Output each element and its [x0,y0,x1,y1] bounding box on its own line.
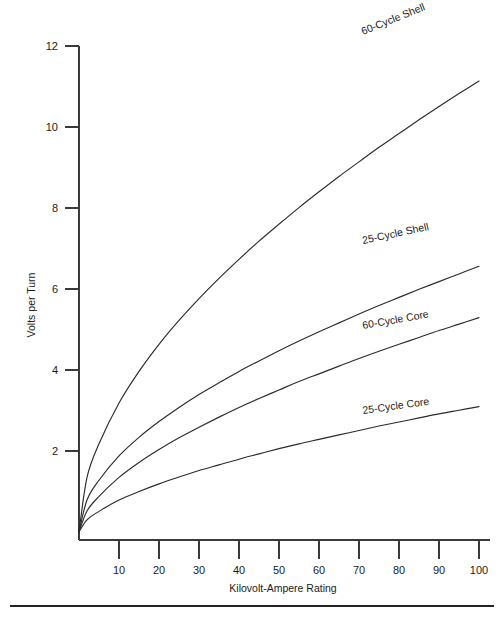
series-labels-group: 60-Cycle Shell 25-Cycle Shell 60-Cycle C… [359,0,430,416]
x-tick-label-10: 10 [113,564,125,576]
volts-per-turn-chart: 12 10 8 6 4 2 Volts per Turn 10 20 30 [0,0,504,618]
y-tick-label-4: 4 [52,364,58,376]
y-tick-label-6: 6 [52,283,58,295]
series-label-25-cycle-shell: 25-Cycle Shell [361,220,430,246]
y-axis-title: Volts per Turn [25,272,37,337]
x-tick-label-70: 70 [353,564,365,576]
x-tick-label-80: 80 [393,564,405,576]
x-tick-label-40: 40 [233,564,245,576]
y-axis-ticks [65,46,79,451]
figure-container: 12 10 8 6 4 2 Volts per Turn 10 20 30 [0,0,504,618]
x-tick-label-90: 90 [433,564,445,576]
axes-group [79,46,490,540]
curve-60-cycle-core [79,318,479,532]
y-tick-label-10: 10 [46,121,58,133]
series-label-60-cycle-shell: 60-Cycle Shell [359,0,426,36]
x-axis-ticks [119,540,479,559]
y-tick-label-2: 2 [52,445,58,457]
x-tick-label-50: 50 [273,564,285,576]
curve-60-cycle-shell [79,81,479,532]
x-tick-label-30: 30 [193,564,205,576]
x-tick-label-100: 100 [470,564,488,576]
y-axis-tick-labels: 12 10 8 6 4 2 [46,40,58,457]
y-tick-label-8: 8 [52,202,58,214]
x-tick-label-20: 20 [153,564,165,576]
series-label-60-cycle-core: 60-Cycle Core [361,307,429,330]
x-tick-label-60: 60 [313,564,325,576]
data-curves-group [79,81,479,532]
x-axis-tick-labels: 10 20 30 40 50 60 70 80 90 100 [113,564,488,576]
x-axis-title: Kilovolt-Ampere Rating [229,582,337,594]
series-label-25-cycle-core: 25-Cycle Core [362,395,430,416]
y-tick-label-12: 12 [46,40,58,52]
curve-25-cycle-core [79,407,479,532]
